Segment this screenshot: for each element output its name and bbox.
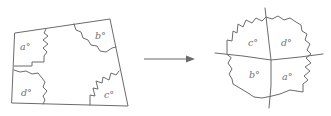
- cross-line-vertical: [265, 8, 271, 108]
- label-d-right: d°: [281, 37, 292, 48]
- diagram-canvas: a° b° d° c° c° d° b° a°: [0, 0, 331, 116]
- label-b-left: b°: [95, 30, 106, 41]
- label-a-right: a°: [282, 71, 292, 82]
- left-quadrilateral: a° b° d° c°: [12, 19, 128, 106]
- label-a-left: a°: [20, 41, 30, 52]
- label-c-right: c°: [248, 37, 258, 48]
- label-d-left: d°: [21, 87, 32, 98]
- label-b-right: b°: [249, 69, 260, 80]
- arrow-head-icon: [186, 56, 195, 63]
- right-rearranged-corners: c° d° b° a°: [215, 8, 323, 108]
- transform-arrow: [144, 56, 195, 63]
- label-c-left: c°: [104, 89, 114, 100]
